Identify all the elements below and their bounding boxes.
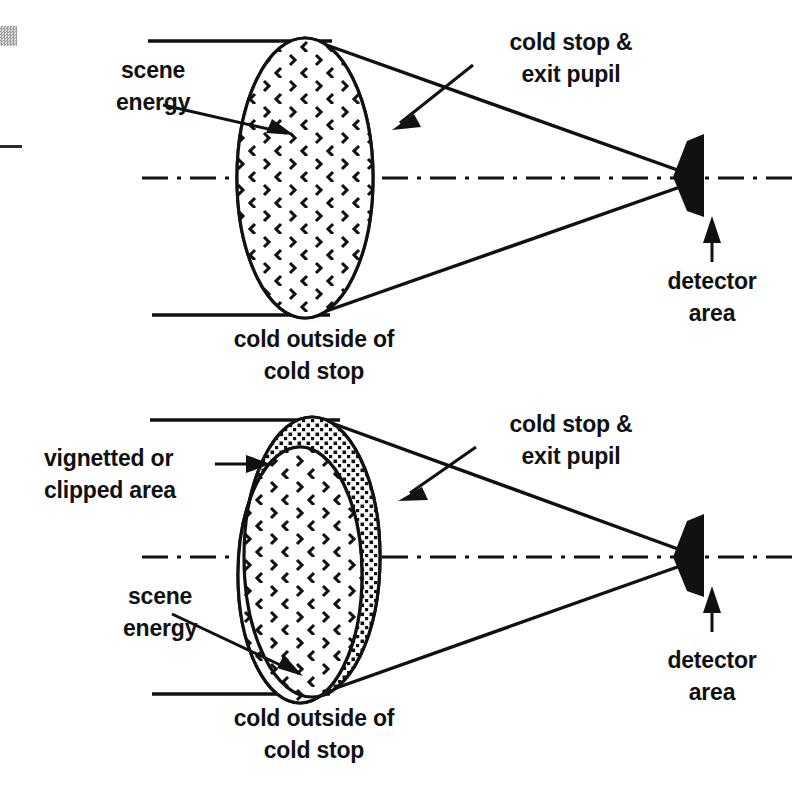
scene-energy-label-line2: energy — [116, 89, 191, 115]
scene-energy-label-2-line1: scene — [128, 583, 192, 609]
bottom-panel-group: vignetted or clipped area cold stop & ex… — [44, 408, 800, 763]
optics-diagram-svg: scene energy cold stop & exit pupil dete… — [0, 0, 809, 809]
detector-area-leader — [703, 216, 721, 262]
scene-energy-fill — [230, 30, 390, 330]
cold-outside-label-line2: cold stop — [264, 358, 365, 384]
detector-area-shape — [673, 134, 704, 217]
detector-area-label-line2: area — [689, 300, 736, 326]
cold-stop-label-2-line2: exit pupil — [522, 443, 621, 469]
cold-outside-label-2-line1: cold outside of — [234, 705, 395, 731]
cold-stop-label-line1: cold stop & — [509, 29, 632, 55]
cold-stop-label-line2: exit pupil — [522, 61, 621, 87]
top-panel-group: scene energy cold stop & exit pupil dete… — [116, 29, 800, 384]
cold-outside-label-line1: cold outside of — [234, 326, 395, 352]
vignetted-area-label-line1: vignetted or — [44, 445, 173, 471]
ray-bundle-line-lower — [318, 180, 700, 314]
detector-area-leader-2 — [703, 586, 721, 632]
cold-stop-leader — [392, 65, 473, 130]
detector-area-shape-2 — [673, 514, 704, 597]
cold-stop-leader-2 — [398, 447, 476, 501]
detector-area-label-2-line2: area — [689, 679, 736, 705]
vignetted-area-label-line2: clipped area — [44, 477, 176, 503]
figure-canvas: scene energy cold stop & exit pupil dete… — [0, 0, 809, 809]
cold-outside-label-2-line2: cold stop — [264, 737, 365, 763]
cold-stop-label-2-line1: cold stop & — [509, 411, 632, 437]
ray-bundle-line-upper — [318, 42, 700, 178]
scene-energy-label-line1: scene — [121, 57, 185, 83]
ray-bundle-line-upper-2 — [326, 421, 700, 557]
detector-area-label-line1: detector — [667, 268, 756, 294]
detector-area-label-2-line1: detector — [667, 647, 756, 673]
scene-energy-label-2-line2: energy — [123, 615, 198, 641]
